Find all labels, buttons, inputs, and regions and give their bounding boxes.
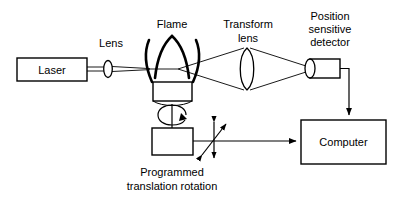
laser-label: Laser bbox=[38, 64, 66, 76]
translation-stage bbox=[152, 128, 193, 155]
ray-upper bbox=[178, 48, 244, 69]
laser-source: Laser bbox=[17, 58, 87, 81]
collimating-lens bbox=[104, 61, 113, 78]
transform-lens bbox=[240, 48, 254, 90]
detector-label-line2: sensitive bbox=[309, 23, 352, 35]
flame-arc-left bbox=[146, 40, 152, 82]
optical-setup-diagram: Laser Lens Flame bbox=[0, 0, 396, 202]
beam-lens-to-detector bbox=[250, 48, 306, 90]
diagram-canvas: Laser Lens Flame bbox=[0, 0, 396, 202]
computer: Computer bbox=[301, 120, 386, 164]
stage-label-line1: Programmed bbox=[140, 166, 204, 178]
burner-head bbox=[153, 82, 192, 106]
transform-lens-label-line2: lens bbox=[238, 32, 259, 44]
transform-lens-label-line1: Transform bbox=[223, 18, 273, 30]
computer-label: Computer bbox=[319, 136, 368, 148]
detector-label-line3: detector bbox=[310, 36, 350, 48]
laser-output-beam bbox=[87, 67, 104, 71]
translation-stage-box bbox=[152, 128, 193, 155]
flame-inner-left bbox=[155, 36, 172, 78]
flame bbox=[146, 36, 199, 82]
beam-lens-to-flame bbox=[112, 67, 150, 72]
burner-head-box bbox=[153, 82, 192, 101]
lens-ellipse bbox=[104, 61, 113, 78]
transform-lens-shape bbox=[240, 48, 254, 90]
translation-arrows bbox=[202, 122, 226, 158]
detector-to-computer-wire bbox=[340, 69, 349, 116]
stage-label-line2: translation rotation bbox=[127, 180, 218, 192]
lens-label: Lens bbox=[99, 37, 123, 49]
flame-label: Flame bbox=[157, 18, 188, 30]
detector-label-line1: Position bbox=[310, 10, 349, 22]
detector-aperture bbox=[305, 59, 315, 78]
position-sensitive-detector bbox=[305, 59, 340, 78]
